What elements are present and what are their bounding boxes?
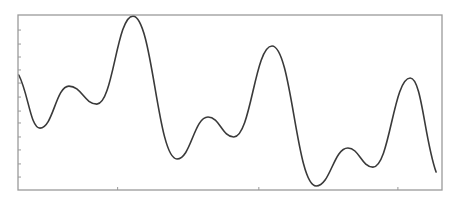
- data-line: [19, 16, 436, 186]
- line-chart: [0, 0, 459, 206]
